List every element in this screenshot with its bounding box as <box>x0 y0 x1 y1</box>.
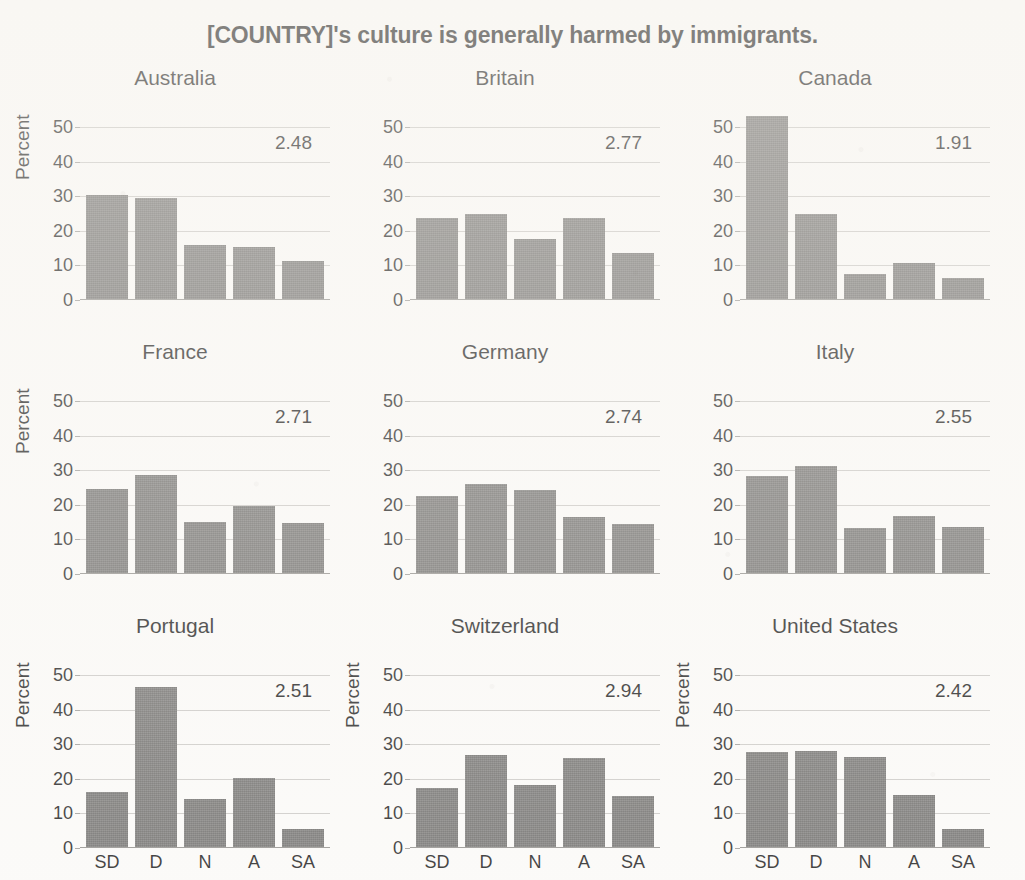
bar-d <box>135 198 177 299</box>
y-axis-title: Percent <box>12 389 34 454</box>
plot-area: 010203040502.94 <box>410 658 660 848</box>
bar-a <box>893 263 935 299</box>
y-tick-label: 40 <box>53 151 73 172</box>
y-tick-label: 10 <box>713 529 733 550</box>
y-tick-label: 50 <box>53 391 73 412</box>
plot-area: 010203040502.51 <box>80 658 330 848</box>
y-tick-label: 30 <box>53 460 73 481</box>
bar-a <box>233 778 275 847</box>
y-tick-label: 10 <box>383 255 403 276</box>
bar-sd <box>746 752 788 847</box>
y-tick-label: 50 <box>713 117 733 138</box>
x-tick-label: SD <box>416 852 458 873</box>
y-tick-label: 40 <box>53 425 73 446</box>
bar-series <box>746 110 984 299</box>
bar-sa <box>282 523 324 573</box>
bar-sd <box>416 218 458 299</box>
y-tick-mark <box>75 196 80 197</box>
y-tick-label: 40 <box>53 699 73 720</box>
y-tick-label: 10 <box>383 529 403 550</box>
y-tick-mark <box>405 505 410 506</box>
bar-n <box>514 239 556 299</box>
x-tick-label: D <box>465 852 507 873</box>
y-tick-mark <box>405 265 410 266</box>
panel-germany: Germany010203040502.74 <box>340 336 670 608</box>
panel-title: Australia <box>10 66 340 90</box>
bar-series <box>86 110 324 299</box>
panel-portugal: PortugalPercent010203040502.51SDDNASA <box>10 610 340 880</box>
x-tick-label: SD <box>746 852 788 873</box>
x-tick-label: SA <box>282 852 324 873</box>
bar-a <box>893 516 935 573</box>
plot-area: 010203040501.91 <box>740 110 990 300</box>
y-tick-label: 40 <box>713 699 733 720</box>
y-tick-label: 50 <box>713 665 733 686</box>
x-tick-label: D <box>135 852 177 873</box>
y-tick-mark <box>735 710 740 711</box>
y-tick-label: 50 <box>713 391 733 412</box>
y-tick-label: 10 <box>713 803 733 824</box>
y-tick-mark <box>405 675 410 676</box>
y-axis-title: Percent <box>342 663 364 728</box>
bar-a <box>563 218 605 299</box>
y-tick-mark <box>735 470 740 471</box>
bar-n <box>184 799 226 847</box>
y-tick-mark <box>735 436 740 437</box>
bar-sa <box>612 796 654 847</box>
bar-d <box>795 466 837 573</box>
plot-area: 010203040502.77 <box>410 110 660 300</box>
bar-d <box>465 484 507 573</box>
y-tick-label: 0 <box>393 564 403 585</box>
bar-series <box>416 384 654 573</box>
y-tick-mark <box>405 196 410 197</box>
y-tick-mark <box>735 744 740 745</box>
plot-area: 010203040502.42 <box>740 658 990 848</box>
y-tick-mark <box>405 574 410 575</box>
x-axis-line <box>80 847 330 848</box>
panel-title: Italy <box>670 340 1000 364</box>
bar-sd <box>86 195 128 299</box>
y-tick-label: 20 <box>383 220 403 241</box>
y-tick-label: 10 <box>383 803 403 824</box>
bar-n <box>844 274 886 299</box>
plot-area: 010203040502.74 <box>410 384 660 574</box>
bar-sa <box>612 524 654 573</box>
bar-d <box>465 214 507 299</box>
y-tick-mark <box>75 401 80 402</box>
bar-sa <box>942 278 984 299</box>
y-tick-mark <box>405 127 410 128</box>
panel-united-states: United StatesPercent010203040502.42SDDNA… <box>670 610 1000 880</box>
bar-n <box>184 245 226 299</box>
panel-france: FrancePercent010203040502.71 <box>10 336 340 608</box>
y-tick-label: 30 <box>383 734 403 755</box>
y-tick-label: 0 <box>63 564 73 585</box>
x-tick-label: N <box>844 852 886 873</box>
y-tick-label: 10 <box>53 255 73 276</box>
y-tick-mark <box>405 470 410 471</box>
bar-a <box>893 795 935 847</box>
y-tick-mark <box>735 162 740 163</box>
y-tick-mark <box>75 436 80 437</box>
bar-d <box>135 475 177 573</box>
bar-sd <box>86 489 128 573</box>
y-tick-mark <box>75 162 80 163</box>
bar-sa <box>942 527 984 573</box>
bar-series <box>416 658 654 847</box>
bar-series <box>416 110 654 299</box>
y-tick-label: 50 <box>53 117 73 138</box>
bar-n <box>514 490 556 573</box>
y-tick-mark <box>735 574 740 575</box>
y-tick-mark <box>75 710 80 711</box>
y-tick-mark <box>735 675 740 676</box>
y-tick-label: 30 <box>383 186 403 207</box>
bar-a <box>563 758 605 847</box>
y-tick-mark <box>735 265 740 266</box>
y-tick-mark <box>75 848 80 849</box>
x-axis-line <box>740 847 990 848</box>
bar-a <box>233 247 275 300</box>
bar-sa <box>282 261 324 299</box>
y-tick-mark <box>75 813 80 814</box>
y-tick-label: 50 <box>53 665 73 686</box>
y-tick-mark <box>75 574 80 575</box>
bar-series <box>746 658 984 847</box>
